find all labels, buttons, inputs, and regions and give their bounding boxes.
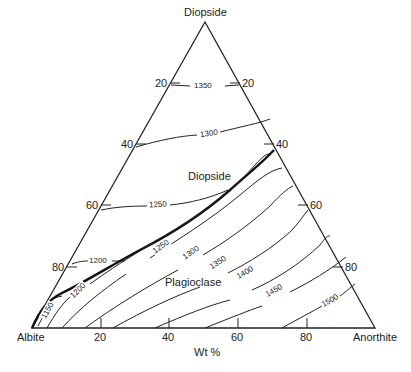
base-tick-80: 80 [300,331,312,343]
vertex-label-albite: Albite [17,331,45,343]
left-tick-40: 40 [121,138,133,150]
right-tick-60: 60 [310,199,322,211]
isotherm-label-1350: 1350 [193,81,213,90]
region-label-diopside: Diopside [188,170,231,182]
right-tick-20: 20 [242,77,254,89]
diagram-lines [0,0,411,372]
region-label-plagioclase: Plagioclase [165,276,221,288]
axis-unit-label: Wt % [194,346,220,358]
left-tick-20: 20 [155,77,167,89]
isotherm-label-1200-di: 1200 [88,256,108,265]
base-tick-60: 60 [231,331,243,343]
right-tick-40: 40 [276,138,288,150]
isotherm-label-1250-di: 1250 [148,199,168,209]
left-tick-80: 80 [52,261,64,273]
left-tick-60: 60 [86,199,98,211]
right-tick-80: 80 [345,261,357,273]
ternary-diagram: Diopside Albite Anorthite Diopside Plagi… [0,0,411,372]
vertex-label-anorthite: Anorthite [353,331,397,343]
base-tick-40: 40 [162,331,174,343]
vertex-label-diopside: Diopside [184,6,227,18]
cotectic-boundary [32,150,274,328]
base-tick-20: 20 [94,331,106,343]
